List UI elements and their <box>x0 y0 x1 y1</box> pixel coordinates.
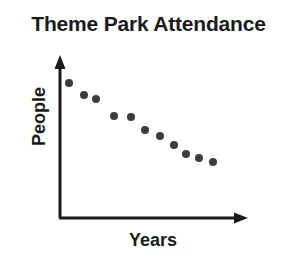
chart-screenshot: Theme Park Attendance People Years <box>0 0 297 262</box>
data-point <box>156 132 164 140</box>
data-point <box>141 126 149 134</box>
data-point <box>182 150 190 158</box>
data-point <box>80 91 88 99</box>
data-point <box>65 79 73 87</box>
horizontal-axis-arrow <box>59 213 248 224</box>
data-point <box>92 95 100 103</box>
y-axis-label: People <box>29 72 50 162</box>
data-point <box>209 158 217 166</box>
data-point <box>127 113 135 121</box>
data-point <box>195 154 203 162</box>
x-axis-label: Years <box>58 230 248 251</box>
plot-area: People Years <box>0 0 297 262</box>
vertical-axis-arrow <box>55 55 66 218</box>
data-point <box>170 141 178 149</box>
data-point <box>110 112 118 120</box>
